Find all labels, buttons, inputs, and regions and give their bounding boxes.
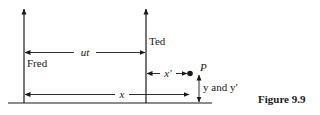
figure-9-9: ut x x′ P y and y′ Fred Ted Figure 9.9 bbox=[0, 0, 320, 115]
y-dimension: y and y′ bbox=[199, 75, 238, 102]
fred-label: Fred bbox=[27, 57, 48, 69]
ut-label: ut bbox=[81, 46, 91, 58]
figure-caption: Figure 9.9 bbox=[258, 93, 306, 105]
x-prime-dimension: x′ bbox=[147, 67, 187, 79]
point-p-label: P bbox=[199, 61, 207, 73]
x-prime-label: x′ bbox=[163, 67, 172, 79]
y-label: y and y′ bbox=[203, 81, 238, 93]
frames-diagram: ut x x′ P y and y′ Fred Ted Figure 9.9 bbox=[0, 0, 320, 115]
point-p bbox=[187, 71, 193, 77]
x-dimension: x bbox=[25, 88, 189, 100]
ted-label: Ted bbox=[149, 35, 166, 47]
x-label: x bbox=[119, 88, 125, 100]
